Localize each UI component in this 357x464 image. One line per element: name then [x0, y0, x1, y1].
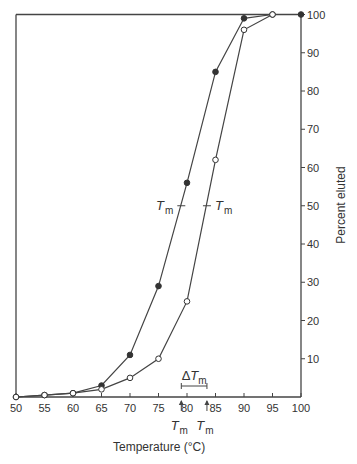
x-tick-label: 85 [209, 402, 221, 414]
y-tick-label: 20 [307, 315, 319, 327]
tm-label-right: Tm [215, 198, 232, 216]
y-tick-label: 40 [307, 238, 319, 250]
y-tick-label: 100 [307, 9, 325, 21]
x-axis-ticks: 50556065707580859095100 [10, 393, 310, 414]
y-tick-label: 50 [307, 200, 319, 212]
y-tick-label: 90 [307, 47, 319, 59]
annotations: TmTmΔTmTmTm [156, 198, 232, 436]
open-data-point [184, 299, 190, 305]
y-tick-label: 60 [307, 162, 319, 174]
open-data-point [13, 394, 19, 400]
delta-tm-label: ΔTm [182, 368, 207, 386]
x-axis-label: Temperature (°C) [113, 440, 205, 454]
filled-data-point [298, 12, 304, 18]
x-tick-label: 50 [10, 402, 22, 414]
filled-data-point [241, 16, 247, 22]
elution-chart: 50556065707580859095100 1020304050607080… [0, 0, 357, 464]
y-tick-label: 30 [307, 276, 319, 288]
x-tick-label: 70 [124, 402, 136, 414]
y-axis-label: Percent eluted [334, 166, 348, 243]
open-data-point [241, 27, 247, 33]
tm-axis-label: Tm [171, 418, 188, 436]
open-data-point [127, 375, 133, 381]
filled-data-point [156, 283, 162, 289]
tm-label-left: Tm [156, 198, 173, 216]
y-tick-label: 10 [307, 353, 319, 365]
x-tick-label: 90 [238, 402, 250, 414]
y-axis-ticks: 102030405060708090100 [301, 9, 325, 365]
filled-data-point [213, 69, 219, 75]
open-data-point [42, 392, 48, 398]
filled-data-point [127, 352, 133, 358]
filled-data-point [184, 180, 190, 186]
open-data-point [270, 12, 276, 18]
y-tick-label: 70 [307, 123, 319, 135]
x-tick-label: 65 [95, 402, 107, 414]
tm-axis-label: Tm [196, 418, 213, 436]
y-tick-label: 80 [307, 85, 319, 97]
x-tick-label: 95 [266, 402, 278, 414]
open-data-point [99, 387, 105, 393]
x-tick-label: 100 [292, 402, 310, 414]
x-tick-label: 75 [152, 402, 164, 414]
x-tick-label: 60 [67, 402, 79, 414]
open-data-point [213, 157, 219, 163]
open-data-point [156, 356, 162, 362]
x-tick-label: 55 [38, 402, 50, 414]
open-data-point [70, 390, 76, 396]
series-line [16, 15, 273, 398]
